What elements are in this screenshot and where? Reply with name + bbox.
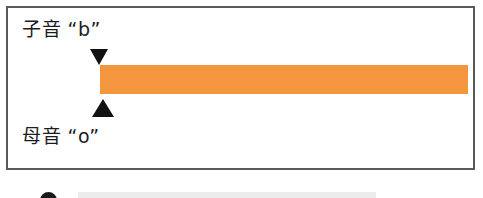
orange-duration-bar <box>100 65 468 94</box>
consonant-label: 子音 “b” <box>22 18 101 41</box>
down-triangle-marker-icon <box>90 49 108 65</box>
next-row-bar <box>78 192 376 198</box>
next-row-fragment <box>0 188 483 198</box>
vowel-label: 母音 “o” <box>22 125 100 148</box>
bullet-marker-icon <box>40 192 57 198</box>
up-triangle-marker-icon <box>92 99 114 117</box>
diagram-panel: 子音 “b” 母音 “o” <box>6 6 475 170</box>
